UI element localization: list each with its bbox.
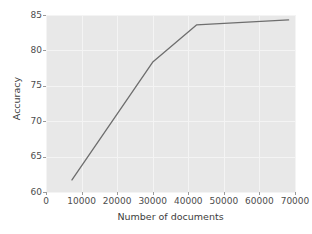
x-tick-mark: [224, 192, 225, 195]
accuracy-line: [72, 20, 289, 180]
y-tick-label: 60: [2, 188, 42, 197]
y-tick-label: 65: [2, 152, 42, 161]
x-tick-mark: [188, 192, 189, 195]
y-tick-mark: [43, 121, 46, 122]
y-tick-mark: [43, 15, 46, 16]
x-tick-mark: [82, 192, 83, 195]
chart-figure: 606570758085 010000200003000040000500006…: [0, 0, 312, 234]
x-tick-mark: [153, 192, 154, 195]
x-axis-ticks: 010000200003000040000500006000070000: [0, 197, 312, 211]
x-tick-mark: [295, 192, 296, 195]
y-tick-label: 75: [2, 81, 42, 90]
x-tick-mark: [46, 192, 47, 195]
x-axis-label: Number of documents: [46, 211, 295, 222]
x-tick-mark: [259, 192, 260, 195]
y-tick-mark: [43, 157, 46, 158]
y-tick-label: 70: [2, 117, 42, 126]
gridline-vertical: [295, 15, 296, 192]
y-tick-label: 80: [2, 46, 42, 55]
data-line-series: [46, 15, 295, 192]
y-tick-mark: [43, 86, 46, 87]
y-tick-mark: [43, 50, 46, 51]
x-tick-mark: [117, 192, 118, 195]
y-tick-label: 85: [2, 11, 42, 20]
y-axis-label: Accuracy: [11, 59, 22, 139]
x-tick-label: 70000: [265, 197, 312, 206]
gridline-horizontal: [46, 192, 295, 193]
plot-area: [46, 15, 295, 192]
